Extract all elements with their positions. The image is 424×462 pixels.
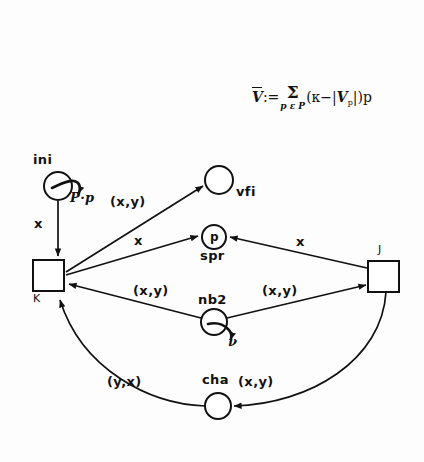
marking-label-ini: P·p xyxy=(70,190,95,205)
formula-minus: − xyxy=(320,89,332,105)
arc-label-nb2-to-K: (x,y) xyxy=(133,283,169,298)
arc-label-K-to-spr: x xyxy=(134,233,143,248)
formula-v-sub: V xyxy=(337,89,348,105)
arc-label-nb2-to-J: (x,y) xyxy=(262,283,298,298)
formula-assign: := xyxy=(263,89,279,105)
summation-subscript: p ε P xyxy=(280,102,305,111)
place-label-spr: spr xyxy=(200,248,225,263)
transition-J[interactable] xyxy=(368,261,399,292)
summation-symbol: Σp ε P xyxy=(280,84,305,111)
formula-tail: p xyxy=(363,89,372,105)
place-label-cha: cha xyxy=(202,372,229,387)
place-label-ini: ini xyxy=(33,152,52,167)
marking-label-nb2: ν xyxy=(228,334,237,349)
arc-label-J-to-spr: x xyxy=(296,234,305,249)
place-cha[interactable] xyxy=(205,393,231,419)
arc-label-K-to-vfi: (x,y) xyxy=(110,194,146,209)
transition-label-K: K xyxy=(33,292,41,305)
arc-cha-to-K xyxy=(60,300,205,406)
formula-expression: V:=Σp ε P(κ−|Vp|)p xyxy=(252,84,372,111)
transition-label-J: J xyxy=(378,243,382,256)
place-label-nb2: nb2 xyxy=(198,292,227,307)
transition-K[interactable] xyxy=(33,260,64,291)
place-label-vfi: vfi xyxy=(236,184,256,199)
formula-lhs: V xyxy=(252,89,263,105)
arc-label-ini-to-K: x xyxy=(34,216,43,231)
place-token-spr: p xyxy=(210,230,219,244)
petri-net-figure: V:=Σp ε P(κ−|Vp|)p ini vfi spr p nb2 cha… xyxy=(0,0,424,462)
arc-K-to-spr xyxy=(66,236,198,275)
arc-label-cha-to-K: (y,x) xyxy=(107,374,142,389)
arc-label-J-to-cha: (x,y) xyxy=(238,374,274,389)
place-vfi[interactable] xyxy=(205,166,233,194)
